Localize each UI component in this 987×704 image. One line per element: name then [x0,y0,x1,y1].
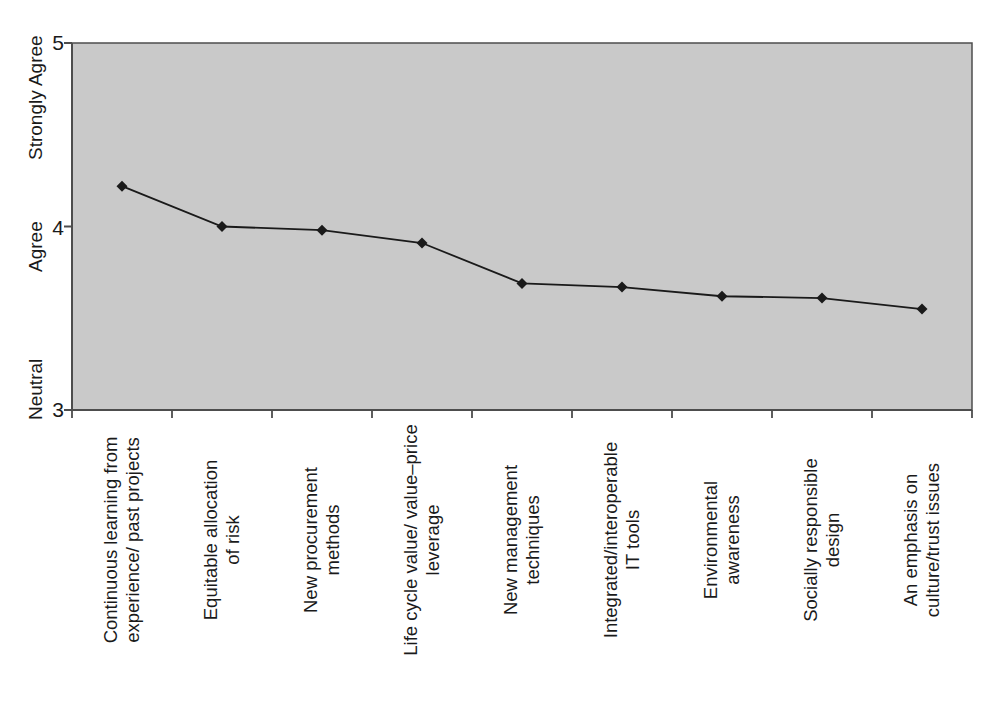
x-axis-label: Environmentalawareness [700,420,744,660]
x-axis-label: New procurementmethods [300,420,344,660]
x-axis-label-line1: Socially responsible [800,420,822,660]
x-axis-label-line1: An emphasis on [900,420,922,660]
x-axis-label-line2: methods [322,420,344,660]
x-axis-label-line2: culture/trust issues [922,420,944,660]
x-axis-label: Socially responsibledesign [800,420,844,660]
x-axis-label-line2: techniques [522,420,544,660]
x-axis-label-line2: experience/ past projects [122,420,144,660]
chart-container: Strongly Agree Agree Neutral 5 4 3 Conti… [0,0,987,704]
x-axis-ticks [72,410,972,418]
x-axis-label-line2: IT tools [622,420,644,660]
x-axis-label-line2: leverage [422,420,444,660]
x-axis-label-line1: Environmental [700,420,722,660]
x-axis-label: New managementtechniques [500,420,544,660]
x-axis-label-line2: of risk [222,420,244,660]
x-axis-label: Integrated/interoperableIT tools [600,420,644,660]
x-axis-label: An emphasis onculture/trust issues [900,420,944,660]
x-axis-label-line2: awareness [722,420,744,660]
x-axis-label-line1: New management [500,420,522,660]
x-axis-label-line1: Equitable allocation [200,420,222,660]
x-axis-label: Life cycle value/ value–priceleverage [400,420,444,660]
x-axis-label-line2: design [822,420,844,660]
x-axis-label-line1: Continuous learning from [100,420,122,660]
x-axis-label-line1: Integrated/interoperable [600,420,622,660]
x-axis-label: Continuous learning fromexperience/ past… [100,420,144,660]
x-axis-label-line1: New procurement [300,420,322,660]
x-axis-label-line1: Life cycle value/ value–price [400,420,422,660]
x-axis-label: Equitable allocationof risk [200,420,244,660]
y-axis-ticks [64,43,72,410]
plot-area-background [72,43,972,410]
